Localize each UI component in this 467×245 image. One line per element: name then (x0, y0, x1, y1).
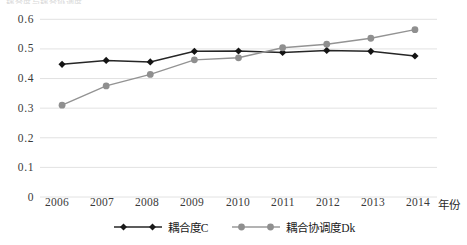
data-point-2012[interactable] (323, 41, 330, 48)
gridlines (40, 19, 437, 197)
data-point-2006[interactable] (59, 102, 66, 109)
xtick-label-2014: 2014 (396, 196, 440, 208)
chart-legend: 耦合度C 耦合协调度Dk (0, 219, 467, 235)
data-point-2007[interactable] (103, 57, 110, 64)
data-point-2012[interactable] (323, 47, 330, 54)
xtick-label-2012: 2012 (306, 196, 350, 208)
legend-item-coupling-degree[interactable]: 耦合度C (112, 219, 209, 235)
data-point-2006[interactable] (58, 61, 65, 68)
legend-marker-circle-icon (230, 221, 282, 233)
xtick-label-2006: 2006 (35, 196, 79, 208)
data-point-2014[interactable] (412, 26, 419, 33)
data-point-2010[interactable] (235, 54, 242, 61)
xtick-label-2008: 2008 (125, 196, 169, 208)
xtick-label-2009: 2009 (170, 196, 214, 208)
data-point-2014[interactable] (411, 52, 418, 59)
xtick-label-2007: 2007 (80, 196, 124, 208)
xtick-label-2010: 2010 (216, 196, 260, 208)
data-point-2008[interactable] (147, 58, 154, 65)
data-point-2011[interactable] (279, 44, 286, 51)
plot-area (0, 0, 467, 245)
data-point-2013[interactable] (367, 35, 374, 42)
legend-marker-diamond-icon (112, 221, 164, 233)
xtick-label-2011: 2011 (261, 196, 305, 208)
series-layer (58, 26, 418, 108)
data-point-2007[interactable] (103, 83, 110, 90)
legend-label-coupling-coordination: 耦合协调度Dk (286, 219, 355, 235)
legend-label-coupling-degree: 耦合度C (168, 219, 209, 235)
legend-item-coupling-coordination[interactable]: 耦合协调度Dk (230, 219, 355, 235)
coupling-degree-line-chart: 耦合度与耦合协调度 0.6 0.5 0.4 0.3 0.2 0.1 0 2006… (0, 0, 467, 245)
data-point-2008[interactable] (147, 71, 154, 78)
series-line (62, 30, 415, 106)
series-coupling-coordination (59, 26, 419, 108)
data-point-2009[interactable] (191, 56, 198, 63)
x-axis-title: 年份 (438, 196, 460, 212)
xtick-label-2013: 2013 (351, 196, 395, 208)
